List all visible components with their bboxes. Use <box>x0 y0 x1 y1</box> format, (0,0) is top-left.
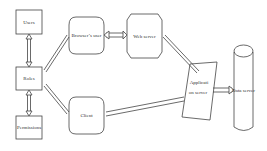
app-server-label-line2: on server <box>189 90 208 95</box>
users-label: Users <box>23 20 34 25</box>
roles-label: Roles <box>23 76 34 81</box>
client-label: Client <box>80 113 93 118</box>
data-server-label: Data server <box>232 88 255 93</box>
permissions-label: Permissions <box>17 125 41 130</box>
architecture-diagram: Users Roles Permissions Browser’s user C… <box>0 0 267 151</box>
app-server-label-line1: Applicati <box>190 80 209 85</box>
browser-user-label: Browser’s user <box>71 33 101 38</box>
web-server-label: Web server <box>133 34 156 39</box>
